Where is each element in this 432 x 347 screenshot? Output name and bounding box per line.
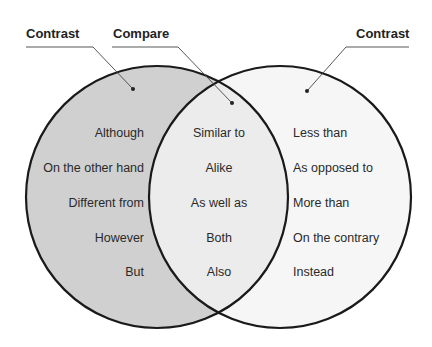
intersection-item: Similar to [169, 126, 269, 140]
leader-dot-middle [230, 101, 234, 105]
right-item: As opposed to [293, 161, 373, 175]
left-item: But [125, 265, 144, 279]
intersection-item: Alike [169, 161, 269, 175]
leader-dot-right [305, 89, 309, 93]
intersection-item: As well as [169, 196, 269, 210]
right-item: Less than [293, 126, 347, 140]
intersection-item: Both [169, 231, 269, 245]
right-item: On the contrary [293, 231, 379, 245]
leader-dot-left [131, 87, 135, 91]
header-compare: Compare [113, 26, 169, 41]
left-item: However [95, 231, 144, 245]
intersection-item: Also [169, 265, 269, 279]
left-item: Although [95, 126, 144, 140]
left-item: On the other hand [43, 161, 144, 175]
header-left-contrast: Contrast [26, 26, 79, 41]
left-item: Different from [69, 196, 145, 210]
header-right-contrast: Contrast [356, 26, 409, 41]
right-item: Instead [293, 265, 334, 279]
right-item: More than [293, 196, 349, 210]
